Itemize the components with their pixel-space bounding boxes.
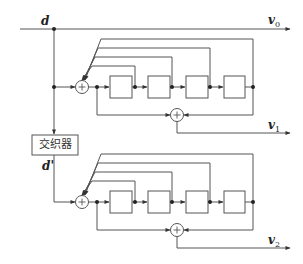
v1-letter: v <box>268 118 275 132</box>
interleaved-label-d-prime: d' <box>42 160 54 172</box>
v2-letter: v <box>268 233 275 247</box>
output-label-v1: v1 <box>268 119 280 134</box>
v2-subscript: 2 <box>275 240 280 249</box>
output-label-v2: v2 <box>268 234 280 249</box>
input-label-d: d <box>41 15 49 27</box>
v1-subscript: 1 <box>275 125 280 134</box>
diagram-svg <box>0 0 303 264</box>
output-label-v0: v0 <box>268 14 280 29</box>
encoder-1 <box>76 39 291 133</box>
v0-subscript: 0 <box>275 20 280 29</box>
turbo-encoder-diagram: d d' 交织器 v0 v1 v2 <box>0 0 303 264</box>
encoder-2 <box>76 154 291 248</box>
v0-letter: v <box>268 13 275 27</box>
interleaver-label: 交织器 <box>32 135 78 155</box>
